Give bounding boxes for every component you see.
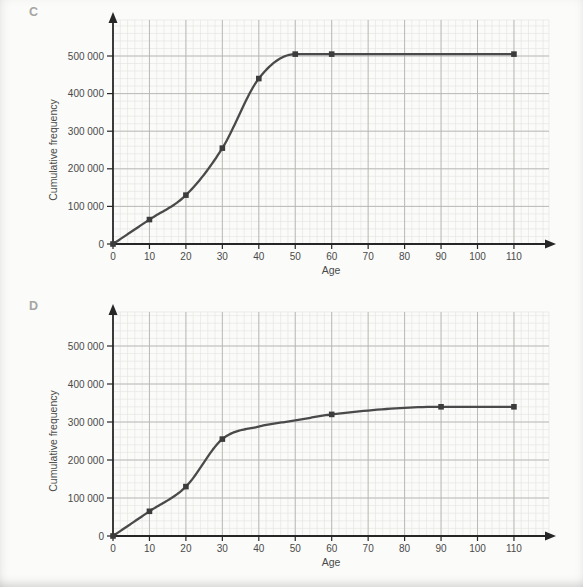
svg-text:10: 10 bbox=[144, 543, 156, 554]
svg-text:0: 0 bbox=[98, 239, 104, 250]
svg-text:80: 80 bbox=[399, 251, 411, 262]
svg-text:50: 50 bbox=[290, 543, 302, 554]
svg-text:Cumulative frequency: Cumulative frequency bbox=[47, 389, 59, 491]
data-point-marker bbox=[329, 412, 335, 418]
svg-text:40: 40 bbox=[253, 251, 265, 262]
data-point-marker bbox=[110, 241, 116, 247]
svg-text:80: 80 bbox=[399, 543, 411, 554]
data-point-marker bbox=[292, 51, 298, 57]
svg-text:110: 110 bbox=[506, 543, 522, 554]
svg-text:60: 60 bbox=[326, 251, 338, 262]
svg-text:110: 110 bbox=[506, 251, 522, 262]
svg-text:60: 60 bbox=[326, 543, 338, 554]
svg-text:10: 10 bbox=[144, 251, 156, 262]
svg-text:40: 40 bbox=[253, 543, 265, 554]
svg-text:300 000: 300 000 bbox=[68, 417, 105, 428]
svg-text:0: 0 bbox=[110, 543, 116, 554]
data-point-marker bbox=[220, 436, 226, 442]
svg-text:20: 20 bbox=[180, 251, 192, 262]
data-point-marker bbox=[329, 51, 335, 57]
svg-text:0: 0 bbox=[98, 531, 104, 542]
data-point-marker bbox=[511, 51, 517, 57]
svg-text:Age: Age bbox=[322, 264, 341, 276]
svg-text:70: 70 bbox=[363, 251, 375, 262]
svg-text:20: 20 bbox=[180, 543, 192, 554]
data-point-marker bbox=[438, 404, 444, 410]
svg-text:90: 90 bbox=[435, 543, 447, 554]
svg-text:100 000: 100 000 bbox=[68, 201, 105, 212]
svg-text:100 000: 100 000 bbox=[68, 493, 105, 504]
data-point-marker bbox=[110, 533, 116, 539]
data-point-marker bbox=[511, 404, 517, 410]
cumulative-frequency-chart-c: 01020304050607080901001100100 000200 000… bbox=[0, 0, 583, 293]
data-point-marker bbox=[147, 217, 153, 223]
svg-text:200 000: 200 000 bbox=[68, 455, 105, 466]
svg-text:100: 100 bbox=[469, 251, 486, 262]
cumulative-frequency-chart-d: 01020304050607080901001100100 000200 000… bbox=[0, 293, 583, 587]
data-point-marker bbox=[256, 76, 262, 82]
data-point-marker bbox=[220, 145, 226, 151]
svg-text:70: 70 bbox=[363, 543, 375, 554]
data-point-marker bbox=[147, 509, 153, 515]
svg-text:Age: Age bbox=[322, 556, 341, 568]
data-point-marker bbox=[183, 484, 189, 490]
svg-text:30: 30 bbox=[217, 543, 229, 554]
svg-text:400 000: 400 000 bbox=[68, 379, 105, 390]
svg-text:200 000: 200 000 bbox=[68, 163, 105, 174]
svg-text:500 000: 500 000 bbox=[68, 341, 105, 352]
svg-text:300 000: 300 000 bbox=[68, 126, 105, 137]
data-point-marker bbox=[183, 192, 189, 198]
svg-text:30: 30 bbox=[217, 251, 229, 262]
svg-text:50: 50 bbox=[290, 251, 302, 262]
svg-text:400 000: 400 000 bbox=[68, 88, 105, 99]
svg-text:100: 100 bbox=[469, 543, 486, 554]
scanned-textbook-page: C 01020304050607080901001100100 000200 0… bbox=[0, 0, 583, 587]
svg-text:500 000: 500 000 bbox=[68, 51, 105, 62]
svg-text:0: 0 bbox=[110, 251, 116, 262]
svg-text:Cumulative frequency: Cumulative frequency bbox=[47, 98, 59, 200]
svg-text:90: 90 bbox=[435, 251, 447, 262]
